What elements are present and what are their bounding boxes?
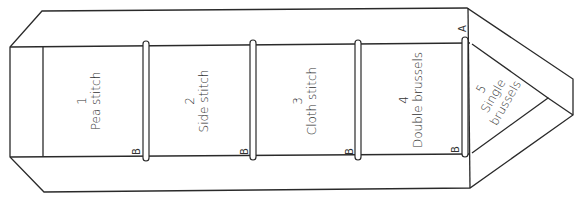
corner-marker-a: A [457, 25, 468, 32]
lace-diagram: 1 Pea stitch B 2 Side stitch B 3 Cloth s… [0, 0, 584, 200]
section-4-label: Double brussels [411, 52, 425, 148]
section-4-marker: B [450, 146, 461, 153]
apex-connector-top [548, 98, 573, 115]
section-4-number: 4 [397, 96, 411, 104]
divider-bar-1 [143, 41, 149, 161]
divider-bar-4 [462, 37, 468, 157]
section-3-label: Cloth stitch [305, 67, 319, 135]
section-2-number: 2 [183, 97, 197, 105]
section-1-label: Pea stitch [89, 72, 103, 131]
section-1-marker: B [131, 148, 142, 155]
divider-bar-2 [250, 40, 256, 160]
section-3-marker: B [344, 148, 355, 155]
inner-top-line [10, 43, 470, 47]
section-2-label: Side stitch [197, 70, 211, 133]
section-2-marker: B [239, 148, 250, 155]
section-1-number: 1 [75, 97, 89, 105]
section-3-number: 3 [291, 97, 305, 105]
divider-bar-3 [355, 40, 361, 160]
